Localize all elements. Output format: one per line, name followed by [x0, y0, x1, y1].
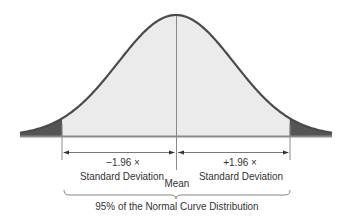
distribution-caption: 95% of the Normal Curve Distribution: [76, 200, 277, 213]
right-multiplier-label: +1.96 ×: [210, 156, 270, 169]
arrowhead-mean-right: [178, 151, 184, 155]
brace-95-percent: [64, 190, 290, 199]
mean-label: Mean: [159, 177, 195, 190]
left-multiplier-label: −1.96 ×: [93, 156, 153, 169]
left-sd-label: Standard Deviation: [79, 170, 165, 183]
right-sd-label: Standard Deviation: [194, 170, 289, 183]
arrowhead-mean-left: [169, 151, 175, 155]
arrowhead-right: [283, 151, 289, 155]
arrowhead-left: [63, 151, 69, 155]
